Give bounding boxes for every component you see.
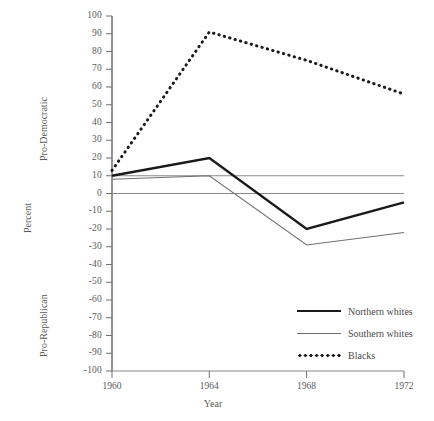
y-tick-label: 60	[62, 81, 102, 91]
y-tick-label: -70	[62, 312, 102, 322]
x-tick-label: 1964	[184, 381, 234, 391]
legend-item-northern-whites: Northern whites	[297, 300, 432, 322]
y-tick-label: -30	[62, 241, 102, 251]
y-tick-label: 0	[62, 188, 102, 198]
y-tick-label: 90	[62, 28, 102, 38]
y-axis-title-pro-democratic: Pro-Democratic	[38, 97, 49, 161]
legend-item-southern-whites: Southern whites	[297, 322, 432, 344]
x-tick-label: 1960	[87, 381, 137, 391]
y-tick-label: 70	[62, 63, 102, 73]
y-tick-label: -50	[62, 276, 102, 286]
y-tick-label: -40	[62, 259, 102, 269]
series-line-blacks	[112, 32, 404, 170]
y-tick-label: 50	[62, 99, 102, 109]
y-tick-label: -90	[62, 347, 102, 357]
y-tick-label: 30	[62, 134, 102, 144]
y-tick-label: 10	[62, 170, 102, 180]
y-axis-title-pro-republican: Pro-Republican	[38, 294, 49, 357]
y-tick-label: -10	[62, 205, 102, 215]
legend-swatch-solid-thick-icon	[297, 306, 341, 316]
y-tick-label: -20	[62, 223, 102, 233]
y-tick-label: 20	[62, 152, 102, 162]
legend-item-blacks: Blacks	[297, 344, 432, 366]
x-axis-title: Year	[178, 398, 248, 409]
y-tick-marks	[106, 16, 112, 371]
y-tick-label: 40	[62, 117, 102, 127]
chart-legend: Northern whites Southern whites Blacks	[297, 300, 432, 366]
x-tick-label: 1968	[282, 381, 332, 391]
legend-label: Southern whites	[348, 328, 413, 339]
legend-label: Northern whites	[348, 306, 413, 317]
legend-label: Blacks	[348, 350, 375, 361]
y-tick-label: 80	[62, 46, 102, 56]
y-tick-label: -80	[62, 330, 102, 340]
y-tick-label: 100	[62, 10, 102, 20]
y-tick-label: -100	[62, 365, 102, 375]
y-axis-title: Percent	[22, 203, 33, 233]
x-tick-label: 1972	[379, 381, 429, 391]
legend-swatch-dotted-icon	[297, 350, 341, 360]
legend-swatch-solid-thin-icon	[297, 328, 341, 338]
series-line-southern-whites	[112, 176, 404, 245]
x-tick-marks	[112, 371, 404, 378]
y-tick-label: -60	[62, 294, 102, 304]
chart-container: 100 90 80 70 60 50 40 30 20 10 0 -10 -20…	[0, 0, 434, 421]
